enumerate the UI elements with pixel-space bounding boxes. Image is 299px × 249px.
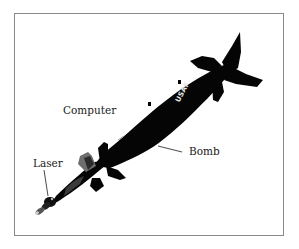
bomb-leader-line <box>158 146 182 152</box>
label-bomb: Bomb <box>189 146 220 157</box>
label-laser: Laser <box>33 158 63 169</box>
label-computer: Computer <box>63 105 116 116</box>
bomb-illustration <box>0 0 299 249</box>
laser-seeker <box>34 197 56 216</box>
laser-leader-line <box>44 170 48 196</box>
